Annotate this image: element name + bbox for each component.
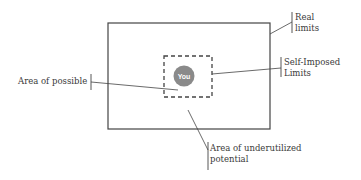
you-label: You xyxy=(178,73,191,80)
underutilized-line2: potential xyxy=(210,154,301,165)
underutilized-leader xyxy=(188,110,208,150)
underutilized-line1: Area of underutilized xyxy=(210,143,301,154)
self-imposed-leader xyxy=(212,68,281,74)
self-imposed-line1: Self-Imposed xyxy=(284,57,340,68)
area-possible-text: Area of possible xyxy=(18,76,87,87)
area-possible-label: Area of possible xyxy=(18,76,87,87)
real-limits-label: Real limits xyxy=(295,12,319,33)
real-limits-leader xyxy=(270,22,292,34)
underutilized-label: Area of underutilized potential xyxy=(210,143,301,164)
real-limits-line1: Real xyxy=(295,12,319,23)
area-possible-leader xyxy=(91,82,178,90)
self-imposed-limits-label: Self-Imposed Limits xyxy=(284,57,340,78)
real-limits-line2: limits xyxy=(295,23,319,34)
self-imposed-line2: Limits xyxy=(284,68,340,79)
